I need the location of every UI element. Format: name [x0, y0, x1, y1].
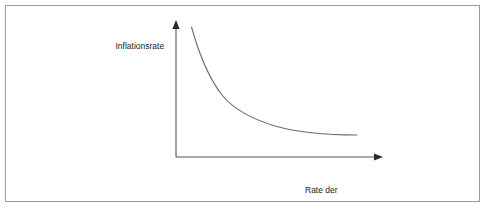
y-axis-arrowhead	[172, 20, 179, 29]
axes-group	[172, 20, 383, 161]
plot-canvas	[0, 0, 487, 216]
y-axis-label: Inflationsrate	[106, 30, 164, 62]
y-axis-label-text: Inflationsrate	[115, 41, 164, 51]
x-axis-label-line-1: Rate der	[305, 185, 362, 196]
phillips-curve-path	[192, 27, 358, 135]
phillips-curve-figure: Inflationsrate Rate der Arbeitslosigkeit	[0, 0, 487, 216]
x-axis-label: Rate der Arbeitslosigkeit	[305, 164, 362, 216]
x-axis-arrowhead	[374, 153, 383, 160]
